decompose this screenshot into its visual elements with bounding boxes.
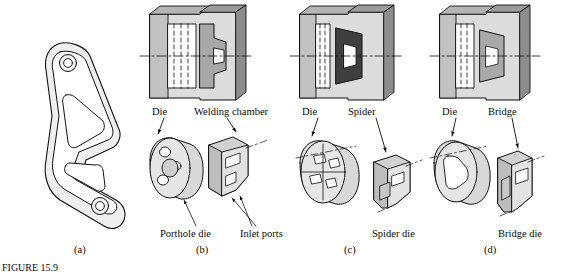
panel-d-die-section (430, 5, 540, 100)
panel-b-porthole-block (209, 137, 268, 196)
figure-illustration (0, 0, 570, 279)
panel-c-spider-label: Spider (348, 106, 375, 117)
panel-b-welding-chamber-label: Welding chamber (194, 106, 268, 117)
panel-a-extrusion-profile (45, 43, 125, 229)
figure-caption: FIGURE 15.9 (2, 262, 58, 273)
panel-d-bridge-die-label: Bridge die (498, 228, 542, 239)
panel-a-letter: (a) (74, 244, 86, 255)
panel-d-bridge-label: Bridge (488, 106, 517, 117)
panel-b-letter: (b) (196, 244, 208, 255)
panel-c-spider-block (374, 155, 422, 212)
panel-c-spider-die-label: Spider die (372, 228, 415, 239)
panel-c-die-section (290, 5, 402, 100)
panel-b-porthole-disc (150, 138, 203, 199)
panel-b-porthole-die-label: Porthole die (160, 228, 211, 239)
panel-b-inlet-ports-label: Inlet ports (240, 228, 283, 239)
panel-c-die-label: Die (302, 106, 317, 117)
panel-c-spider-disc (296, 141, 359, 205)
panel-c-letter: (c) (344, 244, 356, 255)
panel-d-letter: (d) (484, 244, 496, 255)
panel-b-die-label: Die (152, 106, 167, 117)
panel-b-die-section (140, 5, 252, 100)
panel-d-die-label: Die (442, 106, 457, 117)
panel-d-bridge-disc (430, 141, 490, 205)
panel-d-bridge-block (498, 151, 544, 216)
